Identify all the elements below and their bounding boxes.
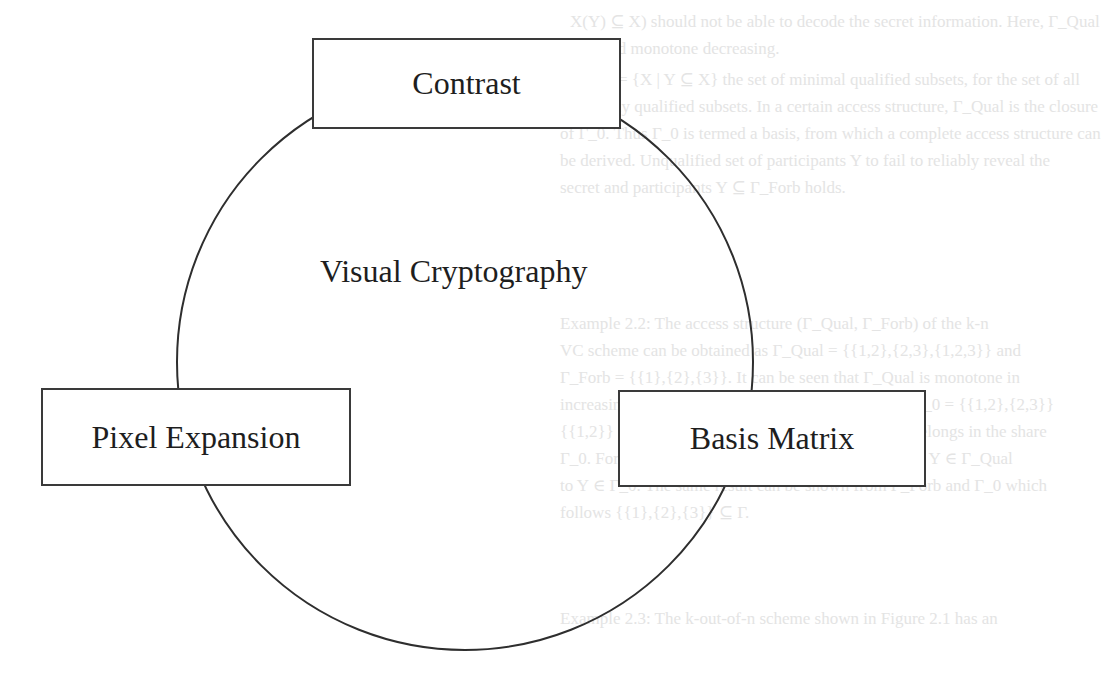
node-label: Contrast xyxy=(412,65,520,102)
node-contrast: Contrast xyxy=(312,38,621,129)
node-label: Basis Matrix xyxy=(690,420,854,457)
node-basis-matrix: Basis Matrix xyxy=(618,390,926,487)
node-pixel-expansion: Pixel Expansion xyxy=(41,388,351,486)
center-label: Visual Cryptography xyxy=(320,253,587,290)
node-label: Pixel Expansion xyxy=(92,419,301,456)
